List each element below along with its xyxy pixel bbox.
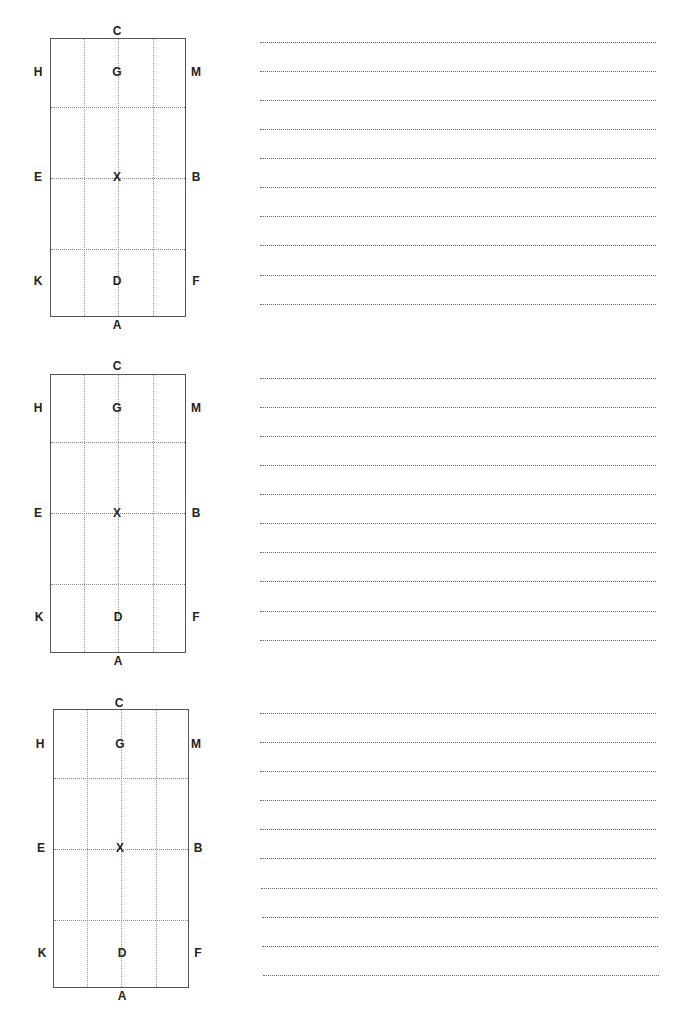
grid-line (54, 920, 188, 921)
writing-line (260, 378, 656, 379)
writing-line (260, 800, 656, 801)
marker-a: A (114, 655, 123, 667)
marker-f: F (194, 947, 201, 959)
marker-b: B (192, 507, 201, 519)
marker-m: M (191, 402, 201, 414)
writing-line (260, 829, 656, 830)
writing-line (260, 552, 656, 553)
writing-line (260, 129, 656, 130)
grid-line (51, 442, 185, 443)
marker-f: F (192, 275, 199, 287)
marker-m: M (191, 66, 201, 78)
writing-line (260, 640, 656, 641)
writing-line (260, 407, 656, 408)
marker-h: H (34, 402, 43, 414)
marker-f: F (192, 611, 199, 623)
marker-g: G (112, 402, 121, 414)
writing-line (260, 713, 656, 714)
writing-line (260, 465, 656, 466)
marker-b: B (194, 842, 203, 854)
marker-c: C (113, 360, 122, 372)
marker-h: H (36, 738, 45, 750)
writing-line (263, 975, 659, 976)
marker-d: D (113, 275, 122, 287)
writing-line (260, 523, 656, 524)
writing-line (260, 304, 656, 305)
marker-k: K (35, 611, 44, 623)
marker-d: D (114, 611, 123, 623)
marker-k: K (38, 947, 47, 959)
writing-line (260, 494, 656, 495)
writing-line (260, 245, 656, 246)
marker-k: K (34, 275, 43, 287)
marker-e: E (34, 507, 42, 519)
writing-line (260, 436, 656, 437)
marker-b: B (192, 171, 201, 183)
writing-line (260, 187, 656, 188)
grid-line (51, 107, 185, 108)
marker-c: C (113, 25, 122, 37)
marker-d: D (118, 947, 127, 959)
writing-line (260, 71, 656, 72)
marker-a: A (118, 990, 127, 1002)
marker-e: E (37, 842, 45, 854)
writing-line (262, 946, 658, 947)
writing-line (260, 100, 656, 101)
marker-x: X (116, 842, 124, 854)
writing-line (260, 611, 656, 612)
marker-g: G (112, 66, 121, 78)
writing-line (260, 581, 656, 582)
writing-line (260, 858, 656, 859)
grid-line (54, 778, 188, 779)
writing-line (262, 917, 658, 918)
marker-m: M (191, 738, 201, 750)
marker-h: H (34, 66, 43, 78)
writing-line (260, 275, 656, 276)
grid-line (51, 584, 185, 585)
writing-line (261, 888, 657, 889)
marker-x: X (113, 507, 121, 519)
grid-line (51, 249, 185, 250)
writing-line (260, 42, 656, 43)
writing-line (260, 742, 656, 743)
writing-line (260, 771, 656, 772)
marker-e: E (34, 171, 42, 183)
writing-line (260, 158, 656, 159)
marker-c: C (115, 697, 124, 709)
writing-line (260, 216, 656, 217)
marker-x: X (113, 171, 121, 183)
marker-g: G (115, 738, 124, 750)
marker-a: A (113, 319, 122, 331)
